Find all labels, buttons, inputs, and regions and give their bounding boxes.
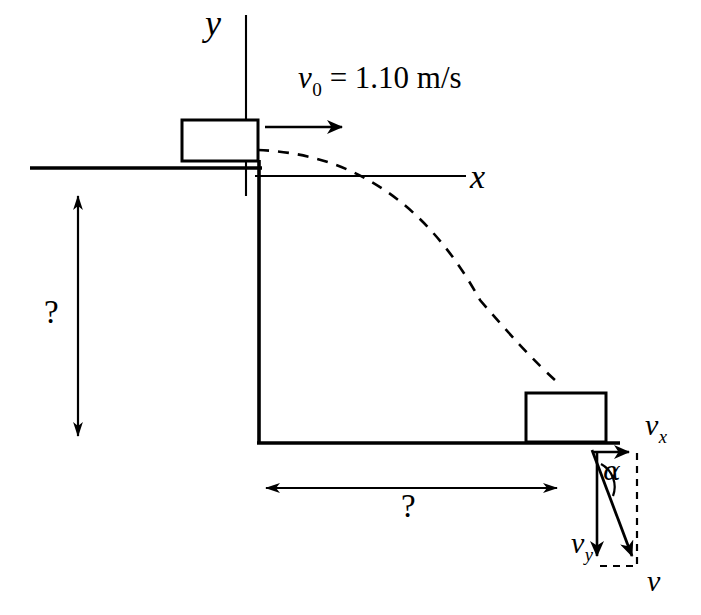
alpha-angle-label: α (603, 458, 621, 484)
block-landed (526, 393, 606, 442)
block-on-table (182, 120, 258, 161)
v0-unit: m/s (409, 60, 462, 95)
vy-label: vy (571, 528, 593, 564)
v-resultant-label: v (647, 566, 660, 596)
v0-equals: = (322, 60, 355, 95)
x-axis-label: x (470, 160, 485, 194)
vx-subscript: x (659, 426, 667, 447)
vy-symbol: v (571, 526, 584, 559)
physics-diagram: y x v0 = 1.10 m/s ? ? vx vy v α (0, 0, 701, 615)
trajectory-path (258, 150, 556, 381)
v0-symbol: v (298, 60, 312, 95)
v0-value: 1.10 (355, 60, 409, 95)
v0-subscript: 0 (312, 79, 322, 100)
vy-subscript: y (585, 544, 593, 565)
unknown-height-label: ? (44, 296, 59, 329)
vx-symbol: v (645, 408, 658, 441)
unknown-range-label: ? (401, 490, 416, 523)
vx-label: vx (645, 410, 667, 446)
y-axis-label: y (205, 5, 221, 41)
initial-velocity-label: v0 = 1.10 m/s (298, 62, 462, 99)
